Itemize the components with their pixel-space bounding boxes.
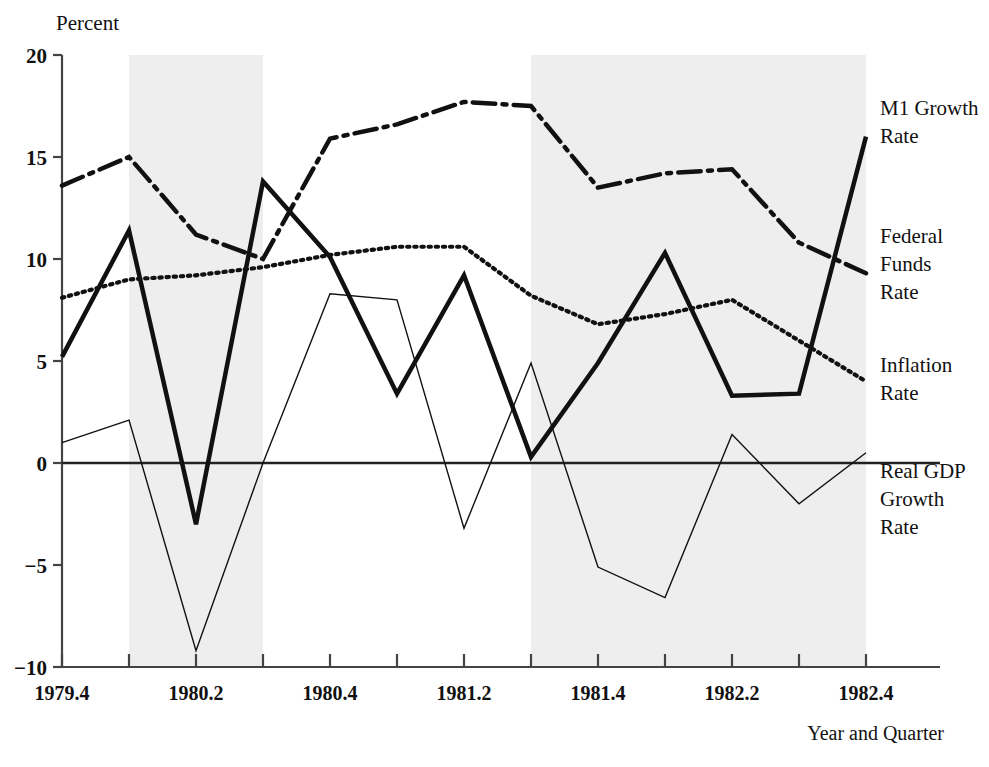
series-label-line: Rate: [880, 381, 918, 405]
series-label-line: Federal: [880, 224, 943, 248]
series-label-line: Rate: [880, 280, 918, 304]
series-label-line: Rate: [880, 124, 918, 148]
y-tick-label: −5: [25, 554, 47, 578]
series-label-line: M1 Growth: [880, 96, 979, 120]
y-tick-label: 20: [26, 44, 47, 68]
x-tick-label: 1981.2: [437, 682, 492, 704]
recession-band-1: [129, 55, 263, 667]
x-tick-label: 1982.2: [705, 682, 760, 704]
series-label-line: Rate: [880, 515, 918, 539]
x-axis-title: Year and Quarter: [807, 722, 944, 744]
y-tick-labels: 20151050−5−10: [14, 44, 47, 680]
series-label-line: Funds: [880, 252, 931, 276]
recession-band-2: [531, 55, 866, 667]
series-label-line: Growth: [880, 487, 945, 511]
y-tick-label: 15: [26, 146, 47, 170]
x-tick-label: 1980.4: [303, 682, 358, 704]
series-label-line: Inflation: [880, 353, 953, 377]
series-labels: M1 GrowthRateFederalFundsRateInflationRa…: [880, 96, 979, 539]
y-tick-label: −10: [14, 656, 47, 680]
y-tick-label: 5: [37, 350, 48, 374]
series-label-line: Real GDP: [880, 459, 966, 483]
x-tick-label: 1979.4: [35, 682, 90, 704]
y-tick-label: 0: [37, 452, 48, 476]
y-axis-unit-label: Percent: [56, 11, 119, 35]
economic-indicators-chart: 20151050−5−10 1979.41980.21980.41981.219…: [0, 0, 989, 767]
x-tick-label: 1982.4: [839, 682, 894, 704]
chart-canvas: 20151050−5−10 1979.41980.21980.41981.219…: [0, 0, 989, 767]
x-tick-label: 1981.4: [571, 682, 626, 704]
x-tick-label: 1980.2: [169, 682, 224, 704]
x-tick-labels: 1979.41980.21980.41981.21981.41982.21982…: [35, 682, 894, 704]
y-tick-label: 10: [26, 248, 47, 272]
